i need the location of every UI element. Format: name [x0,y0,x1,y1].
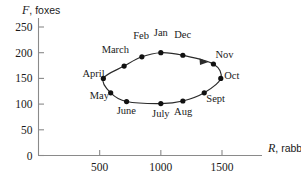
x-tick-label-1000: 1000 [149,161,172,173]
x-axis-ticks [100,150,222,156]
x-tick-label-1500: 1500 [211,161,234,173]
y-axis-title: F, foxes [21,3,60,17]
y-tick-label-50: 50 [21,124,33,136]
point-label-may: May [90,90,110,101]
predator-prey-phase-plot: 050100150200250 50010001500 JanFebMarchA… [0,0,301,186]
data-point-feb [139,54,144,59]
data-point-aug [180,98,185,103]
point-label-july: July [152,108,170,119]
y-tick-label-150: 150 [15,72,33,84]
y-axis-ticks [39,27,45,156]
data-point-march [122,63,127,68]
point-label-april: April [82,68,104,79]
y-axis-tick-labels: 050100150200250 [15,21,33,162]
data-point-markers [101,50,224,106]
x-axis-title: R, rabbits [267,141,301,155]
data-point-july [158,101,163,106]
data-point-nov [211,61,216,66]
y-tick-label-100: 100 [15,98,33,110]
y-tick-label-0: 0 [27,150,33,162]
x-axis-tick-labels: 50010001500 [91,161,234,173]
data-point-oct [218,76,223,81]
x-tick-label-500: 500 [91,161,109,173]
point-label-june: June [117,105,137,116]
y-tick-label-200: 200 [15,47,33,59]
direction-arrow-icon [200,59,209,66]
phase-plot-canvas: 050100150200250 50010001500 JanFebMarchA… [0,0,301,186]
y-tick-label-250: 250 [15,21,33,33]
point-label-nov: Nov [215,49,234,60]
point-label-march: March [102,44,130,55]
point-label-dec: Dec [174,29,191,40]
point-label-sept: Sept [206,93,225,104]
data-point-dec [180,53,185,58]
data-point-june [124,99,129,104]
data-point-jan [158,50,163,55]
point-label-jan: Jan [154,27,169,38]
point-label-aug: Aug [174,106,193,117]
axes-group [38,18,262,156]
point-label-oct: Oct [224,70,239,81]
point-label-feb: Feb [133,30,149,41]
